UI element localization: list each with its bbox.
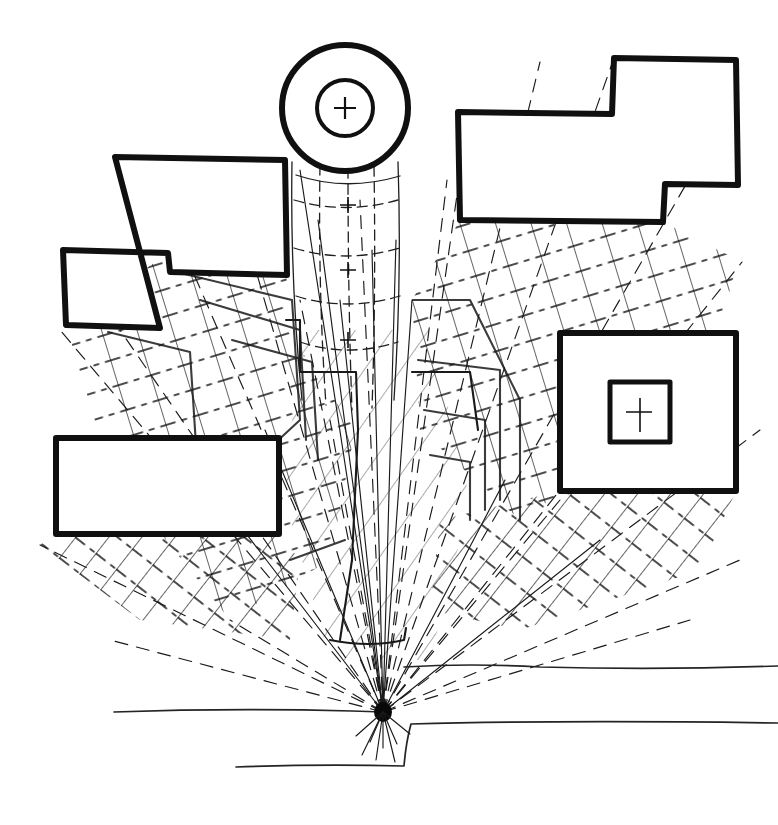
shadow-zone-lower-left [30, 525, 320, 655]
drawing-canvas [0, 0, 778, 825]
building-mass-right-courtyard-block[interactable] [560, 333, 736, 491]
ground-contours [114, 665, 778, 767]
building-mass-lower-left-block[interactable] [56, 438, 279, 534]
building-mass-upper-right-block[interactable] [458, 58, 738, 222]
building-mass-round-tower[interactable] [282, 45, 408, 171]
light-source-point[interactable] [356, 702, 410, 748]
shadow-study-svg [0, 0, 778, 825]
